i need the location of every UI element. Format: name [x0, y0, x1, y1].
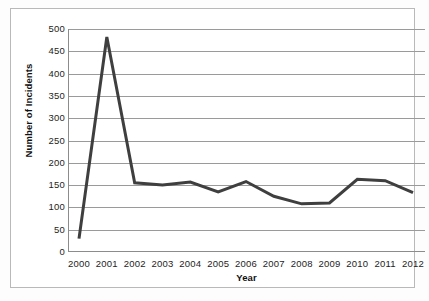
y-tick-label: 400: [37, 69, 65, 79]
x-tick-label: 2009: [315, 258, 345, 269]
plot-area: [68, 29, 425, 252]
y-tick-label: 350: [37, 91, 65, 101]
x-tick-label: 2002: [120, 258, 150, 269]
y-axis-title: Number of Incidents: [23, 56, 34, 166]
line-chart-svg: [68, 29, 425, 252]
axis-ticks: [68, 30, 414, 253]
y-tick-label: 250: [37, 136, 65, 146]
x-tick-label: 2010: [342, 258, 372, 269]
y-tick-label: 500: [37, 24, 65, 34]
y-axis-tick-labels: 050100150200250300350400450500: [35, 9, 65, 301]
y-tick-label: 150: [37, 180, 65, 190]
y-tick-label: 0: [37, 247, 65, 257]
x-axis-title: Year: [68, 272, 425, 283]
y-tick-label: 50: [37, 225, 65, 235]
x-tick-label: 2004: [175, 258, 205, 269]
x-tick-label: 2005: [203, 258, 233, 269]
y-tick-label: 450: [37, 46, 65, 56]
x-tick-label: 2006: [231, 258, 261, 269]
y-tick-label: 100: [37, 202, 65, 212]
x-axis-tick-labels: 2000200120022003200420052006200720082009…: [68, 258, 425, 272]
chart-frame: Number of Incidents 05010015020025030035…: [10, 8, 415, 288]
y-tick-label: 200: [37, 158, 65, 168]
gridlines: [68, 30, 425, 231]
x-tick-label: 2011: [370, 258, 400, 269]
chart-figure: Number of Incidents 05010015020025030035…: [0, 0, 429, 301]
y-tick-label: 300: [37, 113, 65, 123]
x-tick-label: 2008: [287, 258, 317, 269]
x-tick-label: 2007: [259, 258, 289, 269]
x-tick-label: 2001: [92, 258, 122, 269]
x-tick-label: 2003: [148, 258, 178, 269]
data-series-line: [79, 37, 413, 239]
x-tick-label: 2012: [398, 258, 428, 269]
x-tick-label: 2000: [64, 258, 94, 269]
